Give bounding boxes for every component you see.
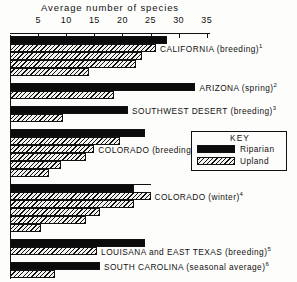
bar-upland — [10, 153, 86, 161]
group-label: LOUISANA and EAST TEXAS (breeding)5 — [101, 246, 271, 257]
group-label-footnote: 6 — [265, 261, 268, 267]
bar-upland — [10, 169, 49, 177]
bar-upland — [10, 44, 156, 52]
bar-upland — [10, 114, 63, 122]
group-label-text: COLORADO (breeding) — [98, 145, 194, 155]
legend-swatch-riparian-icon — [197, 145, 235, 153]
bar-group: LOUISANA and EAST TEXAS (breeding)5 — [10, 239, 297, 255]
legend-swatch-upland-icon — [197, 157, 235, 165]
bar-group: ARIZONA (spring)2 — [10, 83, 297, 99]
group-label-text: CALIFORNIA (breeding) — [160, 44, 259, 54]
x-axis-tick-label: 5 — [35, 15, 40, 25]
bar-group: CALIFORNIA (breeding)1 — [10, 36, 297, 76]
bar-upland — [10, 200, 134, 208]
bar-upland — [10, 52, 142, 60]
legend-label-upland: Upland — [240, 156, 269, 166]
bar-upland — [10, 216, 86, 224]
bar-upland — [10, 161, 61, 169]
bar-upland — [10, 91, 114, 99]
bar-riparian — [10, 129, 145, 137]
x-axis-tick-label: 25 — [145, 15, 156, 25]
group-label-text: COLORADO (winter) — [155, 192, 240, 202]
group-label-footnote: 4 — [240, 191, 243, 197]
x-axis-tick-label: 10 — [61, 15, 72, 25]
bar-upland — [10, 192, 151, 200]
group-label: COLORADO (winter)4 — [155, 191, 243, 202]
group-label-footnote: 1 — [259, 43, 262, 49]
group-label-footnote: 3 — [273, 105, 276, 111]
bar-upland — [10, 68, 89, 76]
x-axis-tick-label: 20 — [117, 15, 128, 25]
group-label-text: SOUTH CAROLINA (seasonal average) — [104, 262, 265, 272]
bar-group: SOUTHWEST DESERT (breeding)3 — [10, 106, 297, 122]
legend-label-riparian: Riparian — [240, 144, 275, 154]
bar-upland — [10, 60, 136, 68]
group-label: SOUTHWEST DESERT (breeding)3 — [132, 105, 276, 116]
x-axis-title: Average number of species — [0, 2, 220, 13]
group-label: CALIFORNIA (breeding)1 — [160, 43, 262, 54]
legend-box: KEY Riparian Upland — [191, 131, 287, 171]
group-label: ARIZONA (spring)2 — [199, 82, 276, 93]
bar-upland — [10, 208, 100, 216]
horizontal-bar-chart: Average number of species 5101520253035 … — [0, 0, 297, 282]
bar-upland — [10, 270, 55, 278]
group-label-text: LOUISANA and EAST TEXAS (breeding) — [101, 247, 267, 257]
group-label-footnote: 2 — [274, 82, 277, 88]
group-label-text: SOUTHWEST DESERT (breeding) — [132, 106, 273, 116]
x-axis-tick-label: 30 — [173, 15, 184, 25]
bar-riparian — [10, 184, 134, 192]
group-label: COLORADO (breeding)4 — [98, 144, 198, 155]
bar-group: COLORADO (winter)4 — [10, 184, 297, 232]
bar-upland — [10, 145, 94, 153]
bar-upland — [10, 247, 97, 255]
bar-riparian — [10, 262, 100, 270]
bar-riparian — [10, 106, 128, 114]
x-axis-line — [10, 33, 210, 34]
bar-group: SOUTH CAROLINA (seasonal average)6 — [10, 262, 297, 278]
bar-upland — [10, 224, 41, 232]
bar-riparian — [10, 36, 167, 44]
bar-riparian — [10, 83, 195, 91]
x-axis-tick-label: 35 — [201, 15, 212, 25]
group-label: SOUTH CAROLINA (seasonal average)6 — [104, 261, 269, 272]
legend-title: KEY — [192, 133, 288, 143]
group-label-text: ARIZONA (spring) — [199, 83, 273, 93]
group-label-footnote: 5 — [267, 246, 270, 252]
x-axis-tick-label: 15 — [89, 15, 100, 25]
